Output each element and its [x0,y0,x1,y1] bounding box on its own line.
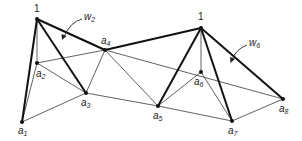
label-a1: a1 [18,126,27,137]
w2-pointer-arrow [62,19,83,40]
edge-a5-a7 [158,106,232,121]
edge-a4-a8 [105,50,283,99]
edge-a4-apexR [105,28,201,50]
base-edges [22,19,283,122]
nodes [20,17,285,124]
label-a4-sub: 4 [107,40,111,47]
node-a5 [156,104,160,108]
label-w6-sub: 6 [256,42,260,49]
node-apex-left [35,17,39,21]
label-a6: a6 [194,77,203,88]
weight-edges [22,19,283,122]
label-a1-sub: 1 [24,130,28,137]
label-a3: a3 [81,98,90,109]
label-a5: a5 [153,111,162,122]
label-a5-sub: 5 [159,115,163,122]
edge-a6-a7 [201,72,232,121]
node-apex-right [199,26,203,30]
label-a8-sub: 8 [285,108,289,115]
edge-a2-a4 [37,50,105,63]
label-a7: a7 [228,126,237,137]
label-w2: w2 [84,12,95,23]
label-a7-sub: 7 [234,130,238,137]
node-a1 [20,120,24,124]
node-a6 [199,70,203,74]
node-a7 [230,119,234,123]
label-a4: a4 [101,36,110,47]
label-a2: a2 [36,69,45,80]
label-w2-sub: 2 [91,16,95,23]
label-a6-sub: 6 [200,81,204,88]
edge-apexR-a5 [158,28,201,106]
label-w6: w6 [249,38,260,49]
apex-left-label: 1 [34,4,40,14]
label-a3-sub: 3 [87,102,91,109]
edge-a1-a3 [22,93,86,122]
node-a3 [84,91,88,95]
node-a4 [103,48,107,52]
label-a2-sub: 2 [42,73,46,80]
node-a2 [35,61,39,65]
edge-a7-a8 [232,99,283,121]
label-a8: a8 [279,104,288,115]
edge-a3-a4 [86,50,105,93]
apex-right-label: 1 [198,12,204,22]
node-a8 [281,97,285,101]
